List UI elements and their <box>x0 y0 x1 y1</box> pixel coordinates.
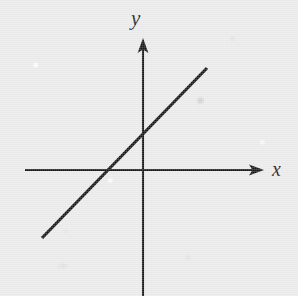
y-axis-label: y <box>131 8 140 29</box>
line-series-linear-function <box>42 68 207 238</box>
coordinate-plot <box>0 0 298 296</box>
x-axis-label: x <box>272 159 281 179</box>
figure-canvas: y x <box>0 0 298 296</box>
